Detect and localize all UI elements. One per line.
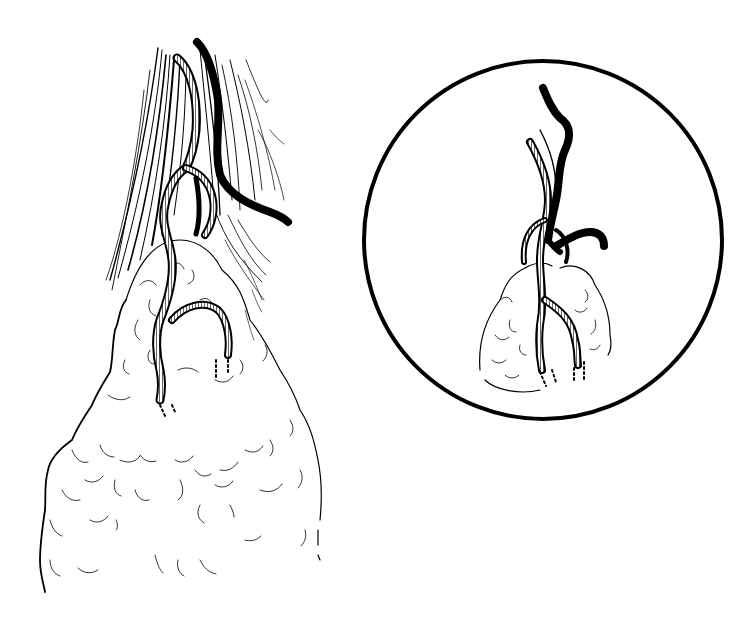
gland-main bbox=[40, 240, 321, 592]
circular-inset bbox=[364, 61, 722, 419]
illustration-canvas bbox=[0, 0, 754, 617]
main-view bbox=[40, 42, 321, 592]
vessel-inset bbox=[524, 130, 584, 386]
